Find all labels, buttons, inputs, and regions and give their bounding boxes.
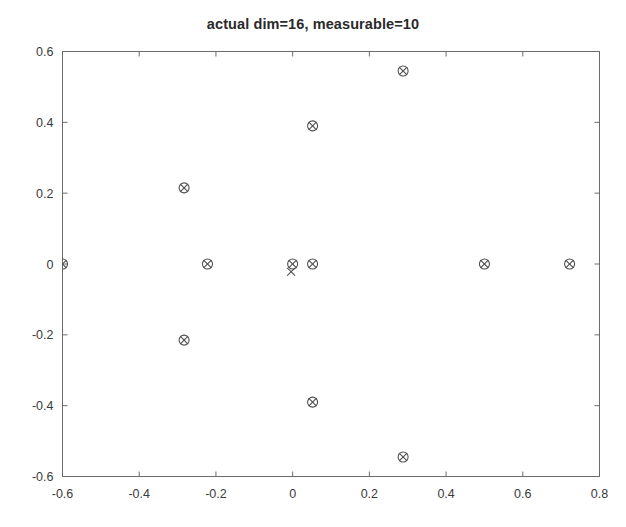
data-point-circle-x [288, 259, 298, 269]
x-tick-label: 0.8 [591, 487, 608, 501]
x-tick-label: 0.2 [361, 487, 378, 501]
y-tick-label: 0.2 [36, 187, 53, 201]
data-point-circle-x [398, 66, 408, 76]
plot-frame [63, 52, 600, 477]
data-point-circle-x [398, 452, 408, 462]
y-tick-label: 0.6 [36, 45, 53, 59]
x-tick-label: -0.4 [128, 487, 150, 501]
x-tick-label: 0 [289, 487, 296, 501]
x-tick-label: -0.2 [205, 487, 227, 501]
figure-container: actual dim=16, measurable=10 -0.6-0.4-0.… [0, 0, 626, 527]
data-point-circle-x [479, 259, 489, 269]
y-tick-label: -0.6 [32, 470, 54, 484]
data-point-circle-x [565, 259, 575, 269]
y-tick-label: -0.2 [32, 328, 54, 342]
y-tick-label: 0 [47, 258, 54, 272]
data-point-circle-x [308, 259, 318, 269]
x-tick-label: 0.4 [437, 487, 454, 501]
data-markers-group [58, 66, 575, 462]
x-tick-label: -0.6 [52, 487, 74, 501]
data-point-circle-x [202, 259, 212, 269]
data-point-circle-x [308, 397, 318, 407]
data-point-circle-x [179, 183, 189, 193]
tick-marks-group [63, 52, 600, 477]
data-point-circle-x [308, 121, 318, 131]
x-tick-labels-group: -0.6-0.4-0.200.20.40.60.8 [52, 487, 609, 501]
data-point-circle-x [179, 335, 189, 345]
y-tick-label: -0.4 [32, 399, 54, 413]
y-tick-labels-group: 0.60.40.20-0.2-0.4-0.6 [32, 45, 54, 484]
scatter-plot: -0.6-0.4-0.200.20.40.60.8 0.60.40.20-0.2… [0, 0, 626, 527]
y-tick-label: 0.4 [36, 116, 53, 130]
x-tick-label: 0.6 [514, 487, 531, 501]
